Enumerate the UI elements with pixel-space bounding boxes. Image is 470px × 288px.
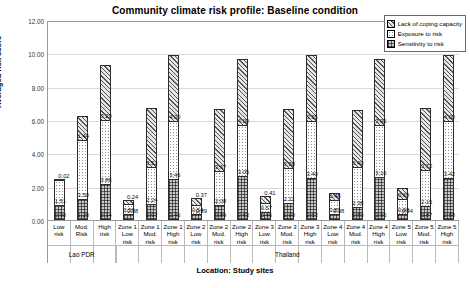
bar-stack[interactable]: 0.972.243.53 bbox=[146, 108, 157, 220]
bar-segment[interactable]: 3.05 bbox=[237, 125, 248, 176]
bar-segment[interactable]: 3.72 bbox=[420, 108, 431, 170]
bar-segment[interactable]: 2.15 bbox=[420, 170, 431, 206]
legend-item[interactable]: Exposure to risk bbox=[387, 29, 462, 38]
bar-segment[interactable]: 1.28 bbox=[77, 199, 88, 220]
y-axis-title: Averaged risk score bbox=[0, 36, 3, 108]
bar-stack[interactable]: 0.390.540.37 bbox=[191, 198, 202, 220]
x-axis-risk-label: Mod. bbox=[75, 223, 89, 230]
bar-stack[interactable]: 2.633.054.00 bbox=[237, 59, 248, 220]
bar-segment[interactable]: 3.50 bbox=[77, 140, 88, 198]
bar-segment[interactable]: 0.46 bbox=[329, 193, 340, 201]
bar-segment[interactable]: 1.44 bbox=[77, 116, 88, 140]
bar-stack[interactable]: 0.340.900.69 bbox=[397, 188, 408, 220]
bar-stack[interactable]: 0.901.510.02 bbox=[54, 179, 65, 220]
bar-stack[interactable]: 2.463.464.00 bbox=[168, 55, 179, 220]
bar-segment[interactable]: 3.40 bbox=[306, 121, 317, 178]
bar-stack[interactable]: 2.143.863.29 bbox=[100, 65, 111, 220]
y-axis-tick-label: 6.00 bbox=[32, 118, 44, 125]
bar-value-label: 2.63 bbox=[238, 212, 249, 218]
bar-value-label: 0.41 bbox=[264, 190, 275, 196]
bar-segment[interactable]: 4.00 bbox=[237, 59, 248, 126]
bar-segment[interactable]: 2.24 bbox=[146, 167, 157, 204]
bar-segment[interactable]: 0.38 bbox=[123, 214, 134, 220]
bar-segment[interactable]: 3.96 bbox=[374, 59, 385, 125]
bar-stack[interactable]: 1.283.501.44 bbox=[77, 116, 88, 220]
legend-swatch-icon bbox=[387, 40, 395, 48]
bar-segment[interactable]: 0.38 bbox=[329, 214, 340, 220]
bar-value-label: 3.40 bbox=[306, 171, 317, 177]
bar-segment[interactable]: 0.80 bbox=[352, 207, 363, 220]
x-axis-risk-label: Mod. bbox=[143, 230, 157, 237]
bar-value-label: 0.81 bbox=[329, 207, 340, 213]
bar-segment[interactable]: 3.58 bbox=[283, 109, 294, 169]
bar-segment[interactable]: 0.37 bbox=[191, 198, 202, 204]
bar-segment[interactable]: 3.53 bbox=[146, 108, 157, 167]
bar-stack[interactable]: 2.503.424.00 bbox=[443, 55, 454, 220]
bar-segment[interactable]: 2.53 bbox=[306, 178, 317, 220]
bar-segment[interactable]: 2.46 bbox=[168, 179, 179, 220]
bar-stack[interactable]: 0.802.383.40 bbox=[352, 110, 363, 220]
bar-segment[interactable]: 2.38 bbox=[352, 167, 363, 207]
bar-segment[interactable]: 2.63 bbox=[237, 176, 248, 220]
bar-stack[interactable]: 2.563.163.96 bbox=[374, 59, 385, 220]
x-axis-zone-label: Zone 4 bbox=[323, 223, 342, 230]
bar-segment[interactable]: 3.42 bbox=[443, 121, 454, 178]
legend-item[interactable]: Lack of coping capacity bbox=[387, 19, 462, 28]
bar-segment[interactable]: 0.90 bbox=[54, 205, 65, 220]
bar-segment[interactable]: 3.16 bbox=[374, 125, 385, 178]
bar-segment[interactable]: 2.56 bbox=[374, 177, 385, 220]
bar-segment[interactable]: 3.67 bbox=[214, 109, 225, 170]
bar-segment[interactable]: 0.57 bbox=[260, 203, 271, 213]
bar-value-label: 0.89 bbox=[215, 212, 226, 218]
x-axis-risk-label: risk bbox=[100, 230, 109, 237]
bar-segment[interactable]: 2.11 bbox=[283, 168, 294, 203]
bar-value-label: 4.00 bbox=[238, 118, 249, 124]
bar-segment[interactable]: 0.46 bbox=[260, 212, 271, 220]
bar-segment[interactable]: 0.81 bbox=[329, 200, 340, 214]
bar-segment[interactable]: 0.54 bbox=[191, 205, 202, 214]
bar-segment[interactable]: 0.69 bbox=[397, 188, 408, 200]
bar-segment[interactable]: 3.29 bbox=[100, 65, 111, 120]
bar-value-label: 2.11 bbox=[284, 196, 295, 202]
bar-value-label: 3.29 bbox=[100, 113, 111, 119]
bar-segment[interactable]: 1.00 bbox=[283, 203, 294, 220]
x-axis-zone-label: Zone 3 bbox=[278, 223, 297, 230]
bar-segment[interactable]: 2.50 bbox=[443, 178, 454, 220]
bar-segment[interactable]: 0.56 bbox=[123, 204, 134, 213]
bar-stack[interactable]: 0.872.153.72 bbox=[420, 108, 431, 220]
bar-segment[interactable]: 0.89 bbox=[214, 205, 225, 220]
chart-container: Community climate risk profile: Baseline… bbox=[0, 0, 470, 288]
legend-item[interactable]: Sensitivity to risk bbox=[387, 39, 462, 48]
bar-segment[interactable]: 0.87 bbox=[420, 206, 431, 221]
bar-value-label: 0.46 bbox=[329, 193, 340, 199]
bar-segment[interactable]: 0.90 bbox=[397, 199, 408, 214]
bar-stack[interactable]: 0.380.810.46 bbox=[329, 193, 340, 220]
bar-segment[interactable]: 3.40 bbox=[352, 110, 363, 167]
bar-segment[interactable]: 0.34 bbox=[397, 214, 408, 220]
x-axis-country-cell: Thailand bbox=[117, 245, 460, 263]
bar-segment[interactable]: 0.97 bbox=[146, 204, 157, 220]
bar-stack[interactable]: 0.380.560.24 bbox=[123, 200, 134, 220]
bar-segment[interactable]: 3.86 bbox=[100, 120, 111, 184]
bar-segment[interactable]: 1.51 bbox=[54, 180, 65, 205]
bar-segment[interactable]: 0.39 bbox=[191, 214, 202, 221]
x-axis-zone-label: Zone 3 bbox=[301, 223, 320, 230]
bar-segment[interactable]: 4.00 bbox=[443, 55, 454, 122]
bar-stack[interactable]: 0.892.083.67 bbox=[214, 109, 225, 220]
bar-value-label: 3.95 bbox=[306, 114, 317, 120]
bar-stack[interactable]: 2.533.403.95 bbox=[306, 55, 317, 220]
bar-stack[interactable]: 1.002.113.58 bbox=[283, 109, 294, 220]
bar-segment[interactable]: 3.95 bbox=[306, 55, 317, 121]
x-axis-zone-label: Zone 5 bbox=[415, 223, 434, 230]
bar-segment[interactable]: 0.02 bbox=[54, 179, 65, 180]
bar-value-label: 3.46 bbox=[169, 172, 180, 178]
bar-segment[interactable]: 2.14 bbox=[100, 184, 111, 220]
bar-value-label: 1.28 bbox=[78, 212, 89, 218]
bar-segment[interactable]: 0.24 bbox=[123, 200, 134, 204]
x-axis-risk-label: Low bbox=[190, 230, 201, 237]
bar-stack[interactable]: 0.460.570.41 bbox=[260, 196, 271, 220]
bar-segment[interactable]: 3.46 bbox=[168, 121, 179, 179]
bar-segment[interactable]: 2.08 bbox=[214, 171, 225, 206]
bar-segment[interactable]: 0.41 bbox=[260, 196, 271, 203]
bar-segment[interactable]: 4.00 bbox=[168, 55, 179, 122]
